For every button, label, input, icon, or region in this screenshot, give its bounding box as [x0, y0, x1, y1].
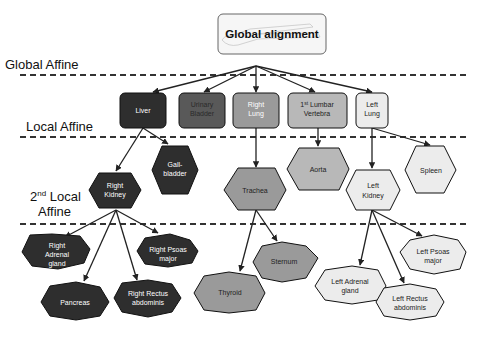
svg-text:major: major	[424, 257, 442, 265]
stage-label-2nd-local-affine-line2: Affine	[38, 204, 71, 219]
svg-text:Right Rectus: Right Rectus	[128, 290, 169, 298]
svg-text:Left Adrenal: Left Adrenal	[331, 278, 369, 285]
svg-text:Sternum: Sternum	[271, 258, 298, 265]
svg-text:Lung: Lung	[248, 110, 264, 118]
stage-label-2nd-local-affine: 2nd Local	[30, 189, 81, 204]
svg-text:Bladder: Bladder	[190, 110, 215, 117]
svg-text:Trachea: Trachea	[242, 187, 268, 194]
node-left-psoas-major[interactable]: Left Psoas major	[400, 235, 466, 274]
svg-text:Aorta: Aorta	[310, 166, 327, 173]
svg-text:Kidney: Kidney	[104, 191, 126, 199]
svg-text:Adrenal: Adrenal	[45, 251, 70, 258]
svg-text:Right: Right	[107, 182, 123, 190]
stage-label-local-affine: Local Affine	[26, 119, 93, 134]
svg-text:Gall-: Gall-	[168, 161, 183, 168]
node-right-rectus-abdominis[interactable]: Right Rectus abdominis	[114, 280, 181, 317]
node-sternum[interactable]: Sternum	[253, 242, 318, 282]
svg-text:Left Psoas: Left Psoas	[416, 248, 450, 255]
svg-text:Vertebra: Vertebra	[304, 110, 331, 117]
stage-label-global-affine: Global Affine	[5, 57, 78, 72]
node-urinary-bladder[interactable]: Urinary Bladder	[179, 93, 225, 128]
node-pancreas[interactable]: Pancreas	[41, 282, 109, 320]
svg-text:abdominis: abdominis	[132, 299, 164, 306]
svg-text:Liver: Liver	[135, 107, 151, 114]
node-liver[interactable]: Liver	[120, 93, 166, 128]
node-right-adrenal-gland[interactable]: Right Adrenal gland	[22, 234, 90, 269]
svg-text:Right Psoas: Right Psoas	[149, 246, 187, 254]
node-right-psoas-major[interactable]: Right Psoas major	[137, 234, 198, 267]
svg-text:Thyroid: Thyroid	[218, 289, 241, 297]
svg-text:abdominis: abdominis	[394, 304, 426, 311]
svg-text:Kidney: Kidney	[362, 192, 384, 200]
svg-text:gland: gland	[341, 287, 358, 295]
svg-text:Left Rectus: Left Rectus	[392, 295, 428, 302]
svg-text:gland: gland	[48, 260, 65, 268]
svg-text:Spleen: Spleen	[420, 167, 442, 175]
registration-hierarchy-diagram: Global Affine Local Affine 2nd Local Aff…	[0, 0, 486, 342]
node-left-adrenal-gland[interactable]: Left Adrenal gland	[315, 266, 386, 304]
svg-text:Lung: Lung	[364, 110, 380, 118]
svg-text:Right: Right	[248, 101, 264, 109]
node-trachea[interactable]: Trachea	[224, 168, 286, 210]
node-global-alignment[interactable]: Global alignment	[218, 14, 326, 54]
node-right-lung[interactable]: Right Lung	[233, 93, 279, 128]
node-aorta[interactable]: Aorta	[287, 148, 349, 190]
node-right-kidney[interactable]: Right Kidney	[89, 173, 141, 208]
svg-text:Urinary: Urinary	[191, 101, 214, 109]
svg-text:major: major	[159, 255, 177, 263]
node-gallbladder[interactable]: Gall- bladder	[152, 146, 198, 194]
svg-text:Left: Left	[366, 101, 378, 108]
node-lumbar-vertebra[interactable]: 1st Lumbar Vertebra	[288, 93, 347, 128]
node-left-rectus-abdominis[interactable]: Left Rectus abdominis	[376, 284, 444, 320]
svg-text:Pancreas: Pancreas	[60, 299, 90, 306]
svg-text:Right: Right	[49, 242, 65, 250]
node-left-lung[interactable]: Left Lung	[356, 93, 388, 128]
node-thyroid[interactable]: Thyroid	[194, 272, 265, 313]
svg-text:Global alignment: Global alignment	[225, 28, 318, 40]
node-left-kidney[interactable]: Left Kidney	[346, 170, 400, 210]
node-spleen[interactable]: Spleen	[405, 146, 456, 193]
svg-text:bladder: bladder	[163, 170, 187, 177]
svg-text:Left: Left	[367, 182, 379, 189]
